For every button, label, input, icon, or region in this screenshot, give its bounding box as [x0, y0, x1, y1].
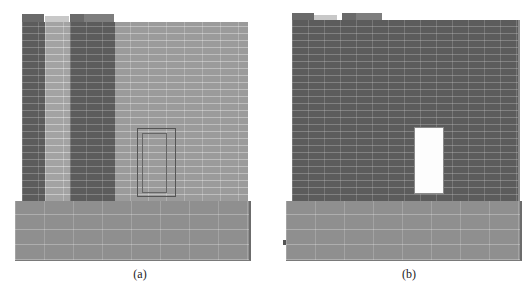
cap-block-left: [22, 14, 44, 22]
panel-label-b: (b): [389, 267, 429, 282]
cap-block-right: [84, 14, 114, 22]
window-outline: [137, 128, 176, 197]
brick-column-dark-1: [22, 22, 45, 202]
panel-a: (a): [0, 0, 266, 298]
window-opening: [414, 127, 444, 194]
panel-label-a: (a): [120, 267, 160, 282]
base-edge-mark: [283, 240, 286, 245]
block-base: [286, 201, 522, 261]
cap-block-mid: [70, 14, 84, 22]
brick-wall-dark: [292, 20, 520, 202]
block-base: [15, 201, 251, 261]
window-frame-inner: [142, 133, 167, 193]
brick-column-dark-2: [70, 22, 115, 202]
brick-column-light: [45, 22, 70, 202]
panel-b: (b): [266, 0, 532, 298]
